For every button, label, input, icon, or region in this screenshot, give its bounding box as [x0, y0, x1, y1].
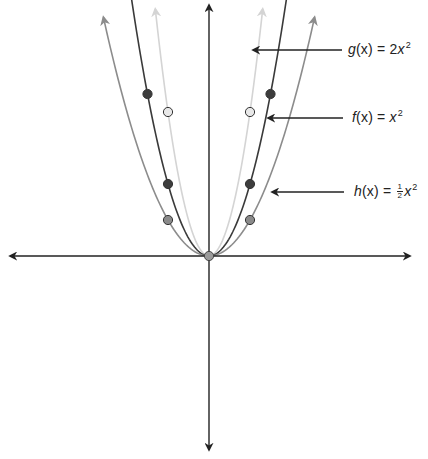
label-f-var: x — [390, 109, 397, 125]
point-g-0 — [163, 107, 172, 116]
label-g: g(x) = 2x2 — [348, 40, 411, 57]
label-h-fraction: 12 — [397, 183, 404, 200]
point-h-0 — [163, 215, 172, 224]
label-arrows-layer — [253, 50, 344, 192]
label-f: f(x) = x2 — [352, 108, 403, 125]
label-g-fn: g — [348, 41, 356, 57]
point-f-1 — [245, 179, 254, 188]
label-h-eq: = — [379, 183, 396, 199]
label-f-exp: 2 — [398, 108, 403, 118]
point-f-0 — [163, 179, 172, 188]
point-f-3 — [266, 89, 275, 98]
label-g-var: x — [397, 41, 404, 57]
point-g-1 — [245, 107, 254, 116]
coordinate-plane — [0, 0, 428, 459]
label-h-exp: 2 — [412, 182, 417, 192]
label-h-arg: (x) — [362, 183, 379, 199]
label-h-frac-den: 2 — [397, 192, 404, 200]
label-g-arg: (x) — [356, 41, 373, 57]
parabola-diagram: g(x) = 2x2 f(x) = x2 h(x) = 12x2 — [0, 0, 428, 459]
axes-layer — [10, 5, 410, 450]
label-g-exp: 2 — [406, 40, 411, 50]
label-h-fn: h — [354, 183, 362, 199]
label-f-eq: = — [373, 109, 390, 125]
label-h: h(x) = 12x2 — [354, 182, 418, 201]
origin-point — [204, 251, 213, 260]
point-h-1 — [245, 215, 254, 224]
label-g-eq: = 2 — [373, 41, 398, 57]
label-f-arg: (x) — [356, 109, 373, 125]
point-f-2 — [143, 89, 152, 98]
label-h-var: x — [404, 183, 411, 199]
